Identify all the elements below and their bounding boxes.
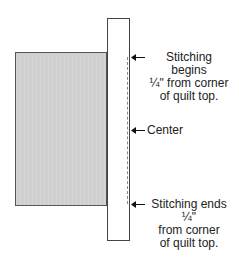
center-label: Center xyxy=(147,124,183,137)
label-line: Stitching begins xyxy=(149,51,229,77)
stitching-line xyxy=(127,57,128,204)
quilt-top-panel xyxy=(15,52,107,206)
label-line: of quilt top. xyxy=(147,237,231,250)
arrow-left-icon xyxy=(131,54,145,61)
label-line: of quilt top. xyxy=(149,90,229,103)
stitching-ends-label: Stitching ends ¼" from corner of quilt t… xyxy=(147,198,231,250)
label-line: Stitching ends ¼" xyxy=(147,198,231,224)
stitching-begins-label: Stitching begins ¼" from corner of quilt… xyxy=(149,51,229,103)
arrow-left-icon xyxy=(131,127,145,134)
arrow-left-icon xyxy=(131,201,145,208)
